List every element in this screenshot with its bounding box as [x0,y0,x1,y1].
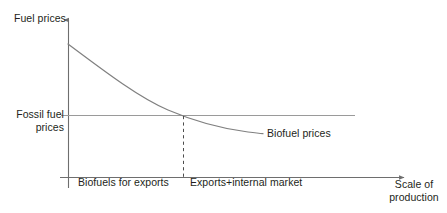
fossil-fuel-label-line1: Fossil fuel [16,108,64,120]
biofuel-price-label: Biofuel prices [267,127,331,140]
x-category-label-exports-internal-market: Exports+internal market [190,176,302,189]
fossil-fuel-label-line2: prices [36,121,64,133]
x-axis-title: Scale ofproduction [381,178,447,203]
chart-figure: Fuel prices Fossil fuelprices Biofuel pr… [0,0,447,213]
fossil-fuel-price-label: Fossil fuelprices [0,108,64,133]
biofuel-price-curve [68,44,263,134]
x-axis-title-line1: Scale of [395,178,433,190]
x-axis-title-line2: production [381,191,447,204]
y-axis-title: Fuel prices [14,12,66,25]
x-category-label-biofuels-for-exports: Biofuels for exports [78,176,169,189]
